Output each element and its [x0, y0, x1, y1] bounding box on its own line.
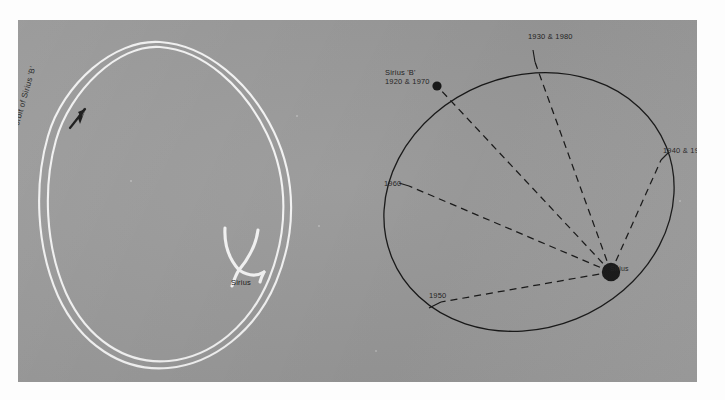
- label-epoch-1930-1980: 1930 & 1980: [528, 32, 573, 41]
- leader-tick-1930-1980: [533, 50, 535, 62]
- dust-speck: [296, 115, 298, 117]
- sirius-b-marker-dot: [432, 81, 441, 90]
- radius-line-1930-1980: [535, 62, 611, 272]
- label-epoch-1950: 1950: [429, 291, 447, 300]
- orbit-path-left: [39, 42, 291, 369]
- label-epoch-1960: 1960: [384, 179, 402, 188]
- left-orbit-drawing: [18, 20, 363, 382]
- label-sirius-b-group: Sirius 'B' 1920 & 1970: [385, 68, 430, 87]
- figure-page: orbit of Sirius 'B' Sirius: [0, 0, 725, 400]
- sirius-label-right: Sirius: [610, 265, 629, 274]
- label-epoch-1940-1990: 1940 & 1990: [663, 146, 697, 155]
- sirius-label-left: Sirius: [231, 278, 251, 287]
- dust-speck: [130, 180, 132, 182]
- photo-plate: orbit of Sirius 'B' Sirius: [18, 20, 697, 382]
- radius-line-1920-1970: [437, 86, 611, 272]
- leader-tick-1950: [429, 302, 441, 308]
- direction-arrow-icon: [69, 108, 86, 129]
- dust-speck: [679, 200, 681, 202]
- dust-speck: [318, 225, 320, 227]
- sirius-b-name-label: Sirius 'B': [385, 68, 430, 77]
- panel-right-ellipse-orbit: Sirius 'B' 1920 & 1970 1930 & 1980 1940 …: [363, 20, 697, 382]
- radius-line-1960: [409, 186, 611, 272]
- dust-speck: [375, 350, 377, 352]
- panel-left-chalk-orbit: orbit of Sirius 'B' Sirius: [18, 20, 363, 382]
- radius-line-1950: [441, 272, 611, 302]
- sirius-b-epoch-label: 1920 & 1970: [385, 77, 430, 86]
